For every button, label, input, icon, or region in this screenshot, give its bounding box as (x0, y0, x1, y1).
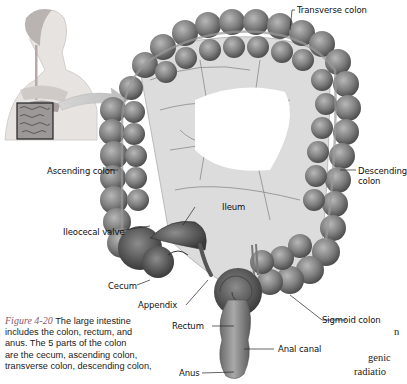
inset-torso (5, 9, 97, 140)
caption-line-3: anus. The 5 parts of the colon (5, 338, 180, 349)
label-ileocecal-valve: Ileocecal valve (63, 227, 125, 237)
label-cecum: Cecum (108, 281, 137, 291)
caption-line-1: The large intestine (55, 316, 131, 326)
figure-number: Figure 4-20 (5, 315, 53, 326)
label-descending-colon-line2: colon (358, 176, 380, 186)
cutoff-text-1: n (394, 326, 399, 337)
label-sigmoid-colon: Sigmoid colon (322, 315, 381, 325)
figure-caption: Figure 4-20 The large intestine includes… (5, 315, 180, 372)
caption-line-4: are the cecum, ascending colon, (5, 350, 180, 361)
cutoff-text-3: radiatio (354, 366, 386, 377)
label-descending-colon-line1: Descending (358, 166, 407, 176)
rectum-shape (220, 300, 251, 379)
label-ascending-colon: Ascending colon (47, 166, 115, 176)
cutoff-text-2: genic (368, 352, 391, 363)
label-anal-canal: Anal canal (278, 344, 321, 354)
label-appendix: Appendix (138, 300, 177, 310)
label-transverse-colon: Transverse colon (297, 5, 367, 15)
label-ileum: Ileum (222, 202, 245, 212)
label-anus: Anus (179, 368, 200, 378)
caption-line-5: transverse colon, descending colon, (5, 361, 180, 372)
caption-line-2: includes the colon, rectum, and (5, 327, 180, 338)
